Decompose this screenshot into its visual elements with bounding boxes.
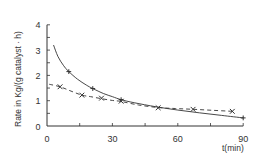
solid-curve (54, 45, 244, 118)
y-tick-label: 1 (35, 96, 40, 106)
y-tick-label: 2 (35, 71, 40, 81)
axes (47, 25, 243, 126)
dashed-curve (49, 84, 232, 111)
y-axis-title: Rate in Kg/(g catalyst · h) (13, 31, 23, 127)
x-axis-title: t(min) (222, 143, 244, 153)
y-tick-label: 0 (35, 122, 40, 132)
x-tick-label: 60 (173, 134, 183, 144)
y-tick-label: 4 (35, 20, 40, 30)
x-tick-label: 30 (107, 134, 117, 144)
series-solid (54, 45, 246, 120)
axis-ticks (47, 25, 243, 126)
y-tick-label: 3 (35, 46, 40, 56)
data-series (49, 45, 245, 120)
rate-vs-time-chart: 030609001234 Rate in Kg/(g catalyst · h)… (0, 0, 264, 165)
x-tick-label: 0 (44, 134, 49, 144)
tick-labels: 030609001234 (35, 20, 248, 144)
series-dashed (49, 84, 235, 113)
